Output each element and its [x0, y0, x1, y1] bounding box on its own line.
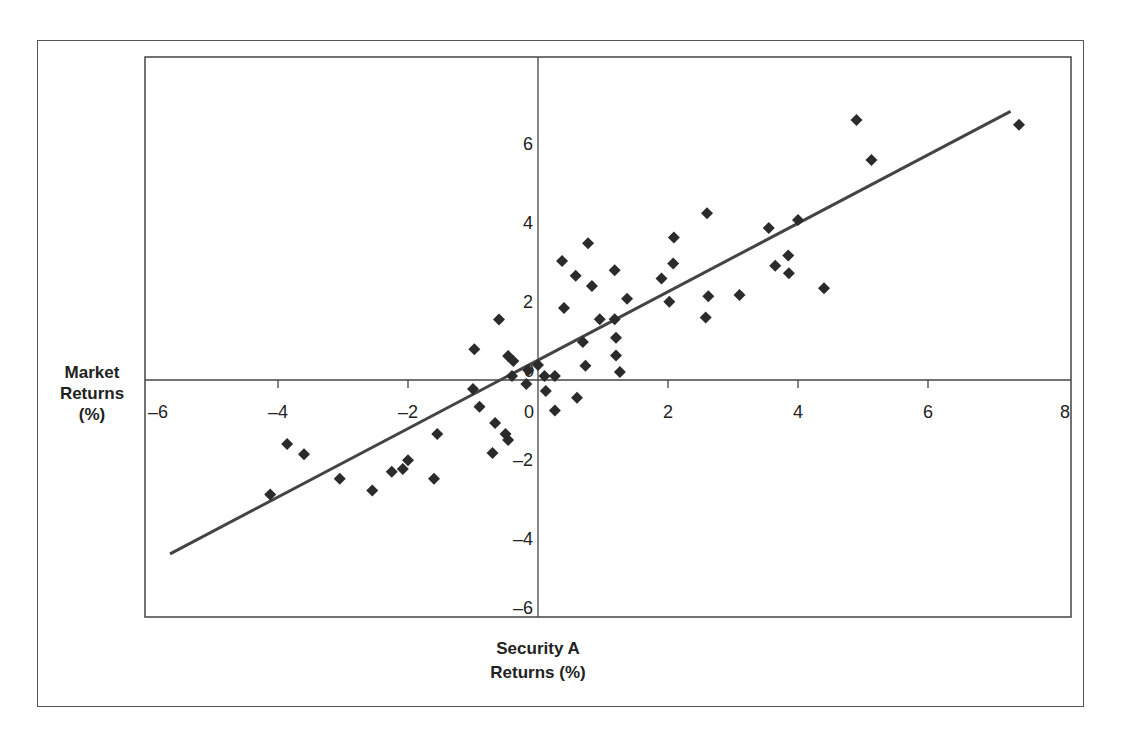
- data-point: [594, 313, 606, 325]
- x-tick-label: 4: [793, 402, 803, 422]
- data-point: [668, 231, 680, 243]
- data-point: [487, 447, 499, 459]
- data-point: [663, 296, 675, 308]
- data-point: [431, 428, 443, 440]
- data-point: [582, 237, 594, 249]
- data-point: [468, 343, 480, 355]
- x-axis-label-line: Returns (%): [438, 661, 638, 685]
- data-point: [782, 250, 794, 262]
- scatter-chart: –6–4–202468 –6–4–22460: [0, 0, 1123, 740]
- data-point: [558, 302, 570, 314]
- data-point: [570, 270, 582, 282]
- y-axis-label-line: Returns: [40, 383, 144, 404]
- data-point: [474, 401, 486, 413]
- data-point: [614, 366, 626, 378]
- y-axis-label-line: Market: [40, 362, 144, 383]
- data-point: [493, 314, 505, 326]
- data-point: [763, 222, 775, 234]
- data-point: [586, 280, 598, 292]
- y-tick-label: 2: [523, 292, 533, 312]
- data-point: [610, 332, 622, 344]
- data-point: [386, 466, 398, 478]
- x-tick-label: –2: [398, 402, 418, 422]
- x-tick-label: –6: [148, 402, 168, 422]
- data-point: [609, 264, 621, 276]
- plot-area: [145, 57, 1071, 617]
- y-tick-label: –4: [513, 529, 533, 549]
- data-point: [571, 392, 583, 404]
- y-tick-label: 4: [523, 213, 533, 233]
- data-point: [656, 272, 668, 284]
- data-point: [851, 114, 863, 126]
- x-tick-label: 8: [1060, 402, 1070, 422]
- data-point: [556, 255, 568, 267]
- regression-line: [170, 111, 1010, 553]
- data-point: [540, 385, 552, 397]
- data-point: [281, 438, 293, 450]
- data-point: [549, 404, 561, 416]
- data-point: [366, 485, 378, 497]
- data-point: [489, 417, 501, 429]
- data-point: [667, 257, 679, 269]
- data-point: [700, 312, 712, 324]
- data-point: [734, 289, 746, 301]
- data-point: [818, 282, 830, 294]
- y-tick-label: –6: [513, 598, 533, 618]
- data-point: [298, 448, 310, 460]
- x-tick-label: –4: [268, 402, 288, 422]
- data-point: [579, 360, 591, 372]
- data-point: [610, 350, 622, 362]
- x-axis-label: Security A Returns (%): [438, 637, 638, 685]
- data-point: [1013, 119, 1025, 131]
- data-point: [769, 260, 781, 272]
- x-tick-label: 0: [524, 402, 534, 422]
- data-point: [865, 154, 877, 166]
- data-point: [621, 293, 633, 305]
- y-axis-label-line: (%): [40, 404, 144, 425]
- data-point: [334, 473, 346, 485]
- y-tick-label: 6: [523, 134, 533, 154]
- x-axis-label-line: Security A: [438, 637, 638, 661]
- x-tick-label: 6: [923, 402, 933, 422]
- data-point: [702, 290, 714, 302]
- data-point: [701, 207, 713, 219]
- y-tick-label: –2: [513, 450, 533, 470]
- x-tick-label: 2: [663, 402, 673, 422]
- data-point: [783, 267, 795, 279]
- y-axis-label: Market Returns (%): [40, 362, 144, 425]
- data-point: [428, 473, 440, 485]
